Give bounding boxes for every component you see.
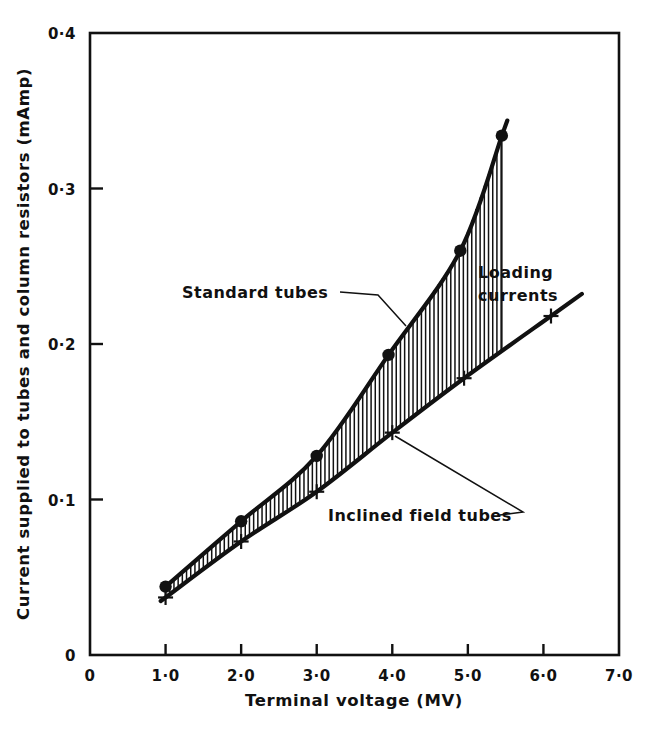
data-point-standard [496,129,508,141]
x-tick-label: 0 [85,667,96,685]
x-tick-label: 3·0 [303,667,331,685]
y-tick-label: 0·1 [48,492,76,510]
data-point-standard [235,515,247,527]
y-tick-label: 0 [65,647,76,665]
y-axis-title: Current supplied to tubes and column res… [14,68,33,620]
x-tick-label: 5·0 [454,667,482,685]
x-axis-title: Terminal voltage (MV) [245,691,463,710]
y-tick-label: 0·4 [48,25,76,43]
x-tick-label: 6·0 [529,667,557,685]
x-tick-label: 4·0 [378,667,406,685]
x-tick-label: 2·0 [227,667,255,685]
loading-currents-chart: 01·02·03·04·05·06·07·0 00·10·20·30·4 Ter… [0,0,654,732]
loading-currents-annotation-line1: Loading [478,263,553,282]
chart-background [0,0,654,732]
inclined-field-tubes-annotation: Inclined field tubes [328,506,512,525]
data-point-standard [311,450,323,462]
y-tick-label: 0·3 [48,181,76,199]
y-tick-label: 0·2 [48,336,76,354]
data-point-standard [382,349,394,361]
loading-currents-annotation-line2: currents [478,286,558,305]
standard-tubes-annotation: Standard tubes [182,283,328,302]
x-tick-label: 1·0 [152,667,180,685]
figure-container: 01·02·03·04·05·06·07·0 00·10·20·30·4 Ter… [0,0,654,732]
data-point-standard [454,245,466,257]
x-tick-label: 7·0 [605,667,633,685]
